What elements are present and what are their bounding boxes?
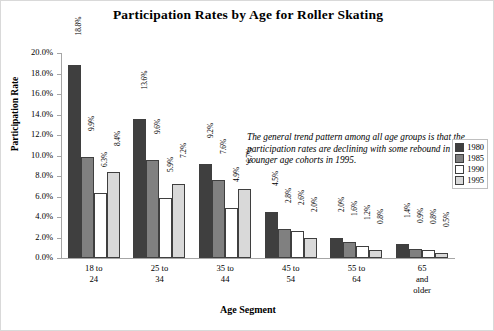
x-tick-label-line: 44 xyxy=(192,274,258,285)
bar-group: 13.6%9.6%5.9%7.2% xyxy=(127,53,193,258)
y-tick-label: 10.0% xyxy=(31,150,53,160)
x-tick-label-line: 24 xyxy=(61,274,127,285)
bar[interactable] xyxy=(107,172,120,258)
bar-slot: 9.2% xyxy=(199,53,212,258)
x-tick-label: 25 to34 xyxy=(127,263,193,285)
bar[interactable] xyxy=(212,180,225,258)
bar-slot: 8.4% xyxy=(107,53,120,258)
legend-swatch-icon xyxy=(455,165,464,174)
bar[interactable] xyxy=(238,189,251,258)
bar[interactable] xyxy=(343,242,356,258)
x-tick-label: 35 to44 xyxy=(192,263,258,285)
x-tick-label-line: and xyxy=(389,274,455,285)
y-tick-label: 18.0% xyxy=(31,68,53,78)
x-tick-label: 45 to54 xyxy=(258,263,324,285)
legend-label: 1980 xyxy=(467,143,484,152)
bar-slot: 6.3% xyxy=(94,53,107,258)
bar-group: 18.8%9.9%6.3%8.4% xyxy=(61,53,127,258)
y-tick-label: 6.0% xyxy=(35,191,53,201)
y-tick-label: 12.0% xyxy=(31,129,53,139)
chart-legend: 1980198519901995 xyxy=(452,139,488,189)
legend-label: 1985 xyxy=(467,154,484,163)
y-tick-label: 16.0% xyxy=(31,88,53,98)
x-tick-label-line: 55 to xyxy=(324,263,390,274)
y-axis-title: Participation Rate xyxy=(10,54,20,174)
y-tick-label: 2.0% xyxy=(35,232,53,242)
bar[interactable] xyxy=(396,244,409,258)
bar[interactable] xyxy=(356,246,369,258)
bar-slot: 9.6% xyxy=(146,53,159,258)
bar[interactable] xyxy=(159,198,172,258)
x-tick-label-line: 54 xyxy=(258,274,324,285)
legend-item-1980[interactable]: 1980 xyxy=(455,142,484,153)
bar-value-label: 0.5% xyxy=(442,212,451,227)
x-tick-label-line: 18 to xyxy=(61,263,127,274)
bar[interactable] xyxy=(81,157,94,258)
x-tick-label: 65andolder xyxy=(389,263,455,296)
y-tick-label: 4.0% xyxy=(35,211,53,221)
bar[interactable] xyxy=(133,119,146,258)
bar-slot: 18.8% xyxy=(68,53,81,258)
bar-value-label: 8.4% xyxy=(113,131,122,146)
bar[interactable] xyxy=(146,160,159,258)
bar-slot: 7.6% xyxy=(212,53,225,258)
x-axis-line xyxy=(61,258,455,259)
bar[interactable] xyxy=(291,231,304,258)
bar[interactable] xyxy=(330,238,343,259)
chart-annotation: The general trend pattern among all age … xyxy=(247,132,479,167)
bar[interactable] xyxy=(94,193,107,258)
x-tick-label-line: 25 to xyxy=(127,263,193,274)
bar-slot: 5.9% xyxy=(159,53,172,258)
bar[interactable] xyxy=(435,253,448,258)
x-tick-label-line: 64 xyxy=(324,274,390,285)
bar[interactable] xyxy=(225,208,238,258)
legend-item-1990[interactable]: 1990 xyxy=(455,164,484,175)
bar-slot: 13.6% xyxy=(133,53,146,258)
chart-container: Participation Rates by Age for Roller Sk… xyxy=(0,0,494,331)
bar[interactable] xyxy=(369,250,382,258)
bar[interactable] xyxy=(422,250,435,258)
x-tick-label-line: older xyxy=(389,285,455,296)
legend-label: 1990 xyxy=(467,165,484,174)
x-tick-label-line: 65 xyxy=(389,263,455,274)
y-tick-label: 20.0% xyxy=(31,47,53,57)
legend-item-1985[interactable]: 1985 xyxy=(455,153,484,164)
y-tick-label: 8.0% xyxy=(35,170,53,180)
bar-value-label: 7.2% xyxy=(179,143,188,158)
bar-slot: 9.9% xyxy=(81,53,94,258)
legend-item-1995[interactable]: 1995 xyxy=(455,175,484,186)
y-tick-label: 14.0% xyxy=(31,109,53,119)
bar-value-label: 0.8% xyxy=(376,209,385,224)
bar-slot: 4.9% xyxy=(225,53,238,258)
legend-label: 1995 xyxy=(467,176,484,185)
bar-value-label: 2.0% xyxy=(310,197,319,212)
y-tick-mark xyxy=(57,258,61,259)
x-tick-label-line: 45 to xyxy=(258,263,324,274)
bar[interactable] xyxy=(172,184,185,258)
bar-value-label: 18.8% xyxy=(74,17,83,36)
bar[interactable] xyxy=(68,65,81,258)
x-tick-label: 18 to24 xyxy=(61,263,127,285)
legend-swatch-icon xyxy=(455,154,464,163)
legend-swatch-icon xyxy=(455,143,464,152)
y-tick-label: 0.0% xyxy=(35,252,53,262)
bar[interactable] xyxy=(199,164,212,258)
x-tick-label: 55 to64 xyxy=(324,263,390,285)
bar-slot: 7.2% xyxy=(172,53,185,258)
bar[interactable] xyxy=(304,238,317,259)
x-axis-title: Age Segment xyxy=(1,304,494,315)
bar[interactable] xyxy=(265,212,278,258)
x-tick-label-line: 35 to xyxy=(192,263,258,274)
bar[interactable] xyxy=(409,249,422,258)
legend-swatch-icon xyxy=(455,176,464,185)
bar[interactable] xyxy=(278,229,291,258)
x-tick-label-line: 34 xyxy=(127,274,193,285)
